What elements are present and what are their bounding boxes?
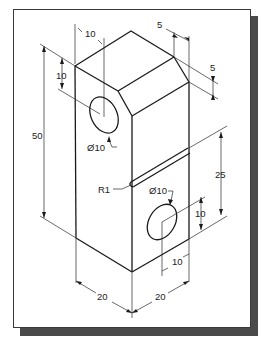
- isometric-drawing: 10 10 50 5 5 Ø10 R1 Ø10 25 10 10 20 20: [0, 0, 266, 343]
- dim-top-offset: 10: [85, 28, 96, 39]
- dim-upper-hole-diameter: Ø10: [87, 142, 105, 153]
- dim-chamfer-horizontal: 5: [157, 19, 162, 30]
- dim-overall-height: 50: [32, 130, 43, 141]
- dim-chamfer-vertical: 5: [210, 62, 215, 73]
- groove: [130, 148, 190, 187]
- dim-groove-height: 25: [215, 169, 226, 180]
- dim-lower-hole-height: 10: [195, 208, 206, 219]
- dim-width-right: 20: [155, 291, 166, 302]
- dim-lower-hole-offset: 10: [172, 256, 183, 267]
- dim-groove-radius: R1: [98, 184, 110, 195]
- dim-lower-hole-diameter: Ø10: [149, 185, 167, 196]
- dimension-lines: [40, 24, 227, 318]
- dim-top-height: 10: [56, 70, 67, 81]
- dim-width-left: 20: [97, 291, 108, 302]
